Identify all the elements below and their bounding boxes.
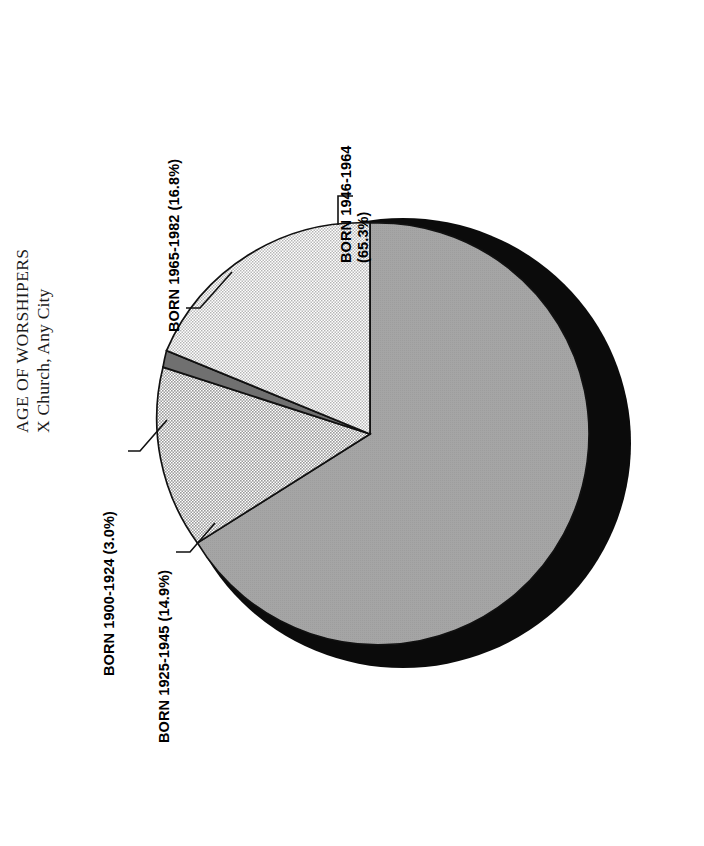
label-born-1946-1964: BORN 1946-1964 (65.3%) — [338, 53, 374, 263]
label-born-1925-1945: BORN 1925-1945 (14.9%) — [156, 508, 174, 743]
label-born-1900-1924: BORN 1900-1924 (3.0%) — [101, 451, 119, 676]
chart-page: AGE OF WORSHIPERS X Church, Any City — [0, 0, 704, 846]
label-born-1946-1964-line2: (65.3%) — [355, 53, 372, 263]
title-line-sub: X Church, Any City — [33, 133, 54, 433]
title-line-main: AGE OF WORSHIPERS — [12, 133, 33, 433]
page-title: AGE OF WORSHIPERS X Church, Any City — [12, 133, 68, 433]
label-born-1965-1982: BORN 1965-1982 (16.8%) — [166, 102, 184, 332]
label-born-1946-1964-line1: BORN 1946-1964 — [338, 53, 355, 263]
